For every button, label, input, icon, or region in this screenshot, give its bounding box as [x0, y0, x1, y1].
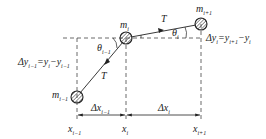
label-mass-cur: mi: [120, 20, 129, 32]
diagram-canvas: [0, 0, 266, 139]
label-mass-next: mi+1: [196, 4, 212, 16]
label-x-cur: xi: [122, 124, 128, 136]
label-dy-left: Δyi−1=yi−yi−1: [18, 57, 70, 69]
angle-arc-theta-prev: [113, 38, 117, 48]
label-x-prev: xi−1: [68, 124, 81, 136]
mass-prev: [71, 91, 83, 103]
label-tension-right: T: [161, 14, 167, 24]
label-theta-prev: θi−1: [97, 43, 111, 55]
label-dy-right: Δyi=yi+1−yi: [206, 33, 251, 45]
label-dx-cur: Δxi: [158, 103, 170, 115]
mass-cur: [120, 32, 132, 44]
label-tension-left: T: [101, 71, 107, 81]
tension-arrow-right: [158, 28, 164, 33]
mass-next: [195, 18, 207, 30]
label-theta-cur: θi: [172, 28, 179, 40]
label-dx-prev: Δxi−1: [91, 103, 110, 115]
label-mass-prev: mi−1: [52, 90, 68, 102]
angle-arc-theta-i: [185, 27, 187, 38]
label-x-next: xi+1: [193, 124, 206, 136]
